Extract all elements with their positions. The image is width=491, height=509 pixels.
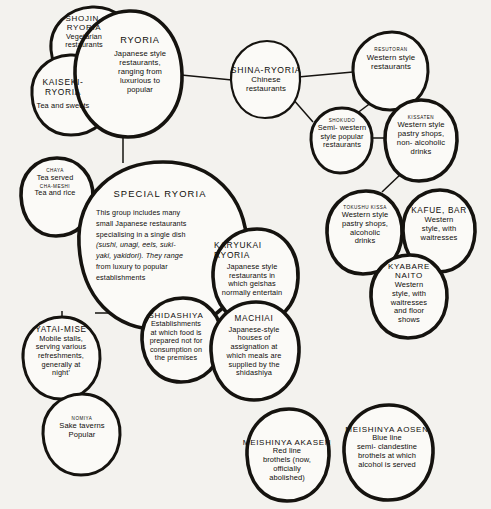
blob-kyabare[interactable] <box>371 255 447 338</box>
blob-yatai[interactable] <box>23 317 100 399</box>
blob-resutoran[interactable] <box>353 32 428 110</box>
blob-shokudo[interactable] <box>311 108 372 173</box>
blob-shina[interactable] <box>231 41 300 118</box>
connector-shina-resutoran <box>298 72 353 77</box>
blob-ryoria[interactable] <box>75 11 182 137</box>
blob-nomiya[interactable] <box>43 394 120 475</box>
blob-group <box>21 7 475 501</box>
blob-aosen[interactable] <box>344 405 433 500</box>
diagram-shapes <box>0 0 491 509</box>
blob-kissaten[interactable] <box>385 100 457 181</box>
blob-akasen[interactable] <box>247 409 329 501</box>
diagram-canvas: RYORIA Japanese stylerestaurants,ranging… <box>0 0 491 509</box>
blob-machiai[interactable] <box>211 302 299 400</box>
